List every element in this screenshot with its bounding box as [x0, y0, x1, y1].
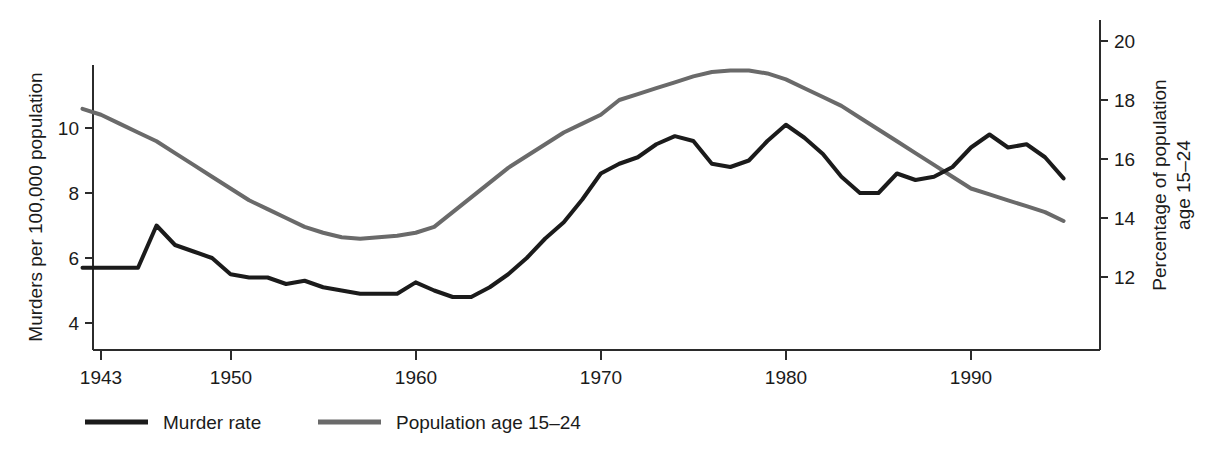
right-axis-ticks: 20 18 16 14 12 — [1100, 31, 1136, 288]
x-axis-tick-label-1980: 1980 — [765, 367, 807, 388]
series-group — [82, 71, 1063, 298]
line-chart: 10 8 6 4 Murders per 100,000 population … — [0, 0, 1223, 458]
right-axis-title-line2: age 15–24 — [1173, 140, 1194, 230]
x-axis-tick-label-1970: 1970 — [580, 367, 622, 388]
right-axis-title-line1: Percentage of population — [1149, 79, 1170, 290]
axes-frame — [93, 20, 1100, 350]
right-axis-tick-label-12: 12 — [1114, 267, 1135, 288]
right-axis-title: Percentage of population age 15–24 — [1149, 79, 1194, 290]
left-axis-tick-label-8: 8 — [68, 183, 79, 204]
legend-item-population[interactable]: Population age 15–24 — [318, 412, 581, 433]
left-axis-tick-label-6: 6 — [68, 248, 79, 269]
chart-page: 10 8 6 4 Murders per 100,000 population … — [0, 0, 1223, 458]
x-axis-tick-label-1943: 1943 — [80, 367, 122, 388]
left-axis-title: Murders per 100,000 population — [25, 72, 46, 341]
right-axis-tick-label-16: 16 — [1114, 149, 1135, 170]
legend: Murder rate Population age 15–24 — [85, 412, 581, 433]
right-axis-tick-label-18: 18 — [1114, 90, 1135, 111]
legend-item-murder-rate[interactable]: Murder rate — [85, 412, 261, 433]
left-axis-tick-label-10: 10 — [58, 118, 79, 139]
right-axis-tick-label-14: 14 — [1114, 208, 1136, 229]
right-axis-tick-label-20: 20 — [1114, 31, 1135, 52]
legend-label-population: Population age 15–24 — [396, 412, 581, 433]
x-axis-ticks: 1943 1950 1960 1970 1980 1990 — [80, 350, 992, 388]
x-axis-tick-label-1950: 1950 — [210, 367, 252, 388]
x-axis-tick-label-1960: 1960 — [395, 367, 437, 388]
left-axis-ticks: 10 8 6 4 — [58, 118, 93, 334]
x-axis-tick-label-1990: 1990 — [950, 367, 992, 388]
left-axis-tick-label-4: 4 — [68, 313, 79, 334]
legend-label-murder-rate: Murder rate — [163, 412, 261, 433]
series-line-murder-rate — [82, 125, 1063, 297]
